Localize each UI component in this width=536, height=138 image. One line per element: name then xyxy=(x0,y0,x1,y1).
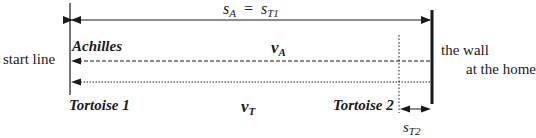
st1-sub: T1 xyxy=(267,7,279,19)
gap-arrow-right-head xyxy=(421,106,431,113)
va-var: v xyxy=(271,38,279,57)
distance-arrow-left-head xyxy=(71,16,81,24)
wall-label-line1: the wall xyxy=(441,43,489,58)
tortoise-velocity-label: vT xyxy=(241,98,255,117)
tortoise-arrow-head xyxy=(71,79,81,86)
start-line-label: start line xyxy=(3,52,55,67)
tortoise1-label: Tortoise 1 xyxy=(69,98,130,113)
gap-distance-label: sT2 xyxy=(403,120,420,137)
gap-arrow-left-head xyxy=(400,106,410,113)
achilles-label: Achilles xyxy=(72,39,122,54)
sa-sub: A xyxy=(229,7,236,19)
va-sub: A xyxy=(279,46,286,58)
achilles-arrow-head xyxy=(71,58,81,65)
distance-label: sA = sT1 xyxy=(223,1,279,19)
tortoise2-label: Tortoise 2 xyxy=(333,98,394,113)
vt-var: v xyxy=(241,97,249,116)
vt-sub: T xyxy=(249,105,256,117)
equals-sign: = xyxy=(244,0,253,17)
st2-sub: T2 xyxy=(409,125,421,137)
wall-label-line2: at the home xyxy=(466,62,536,77)
achilles-velocity-label: vA xyxy=(271,39,286,58)
